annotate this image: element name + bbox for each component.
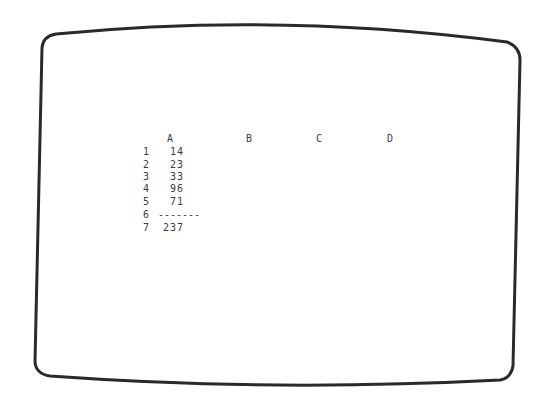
row-number-6[interactable]: 6 [143, 209, 153, 221]
cell-a7-total[interactable]: 237 [144, 222, 184, 234]
cell-a3[interactable]: 33 [144, 171, 184, 183]
column-header-a[interactable]: A [167, 133, 174, 145]
cell-a4[interactable]: 96 [144, 183, 184, 195]
cell-a1[interactable]: 14 [144, 146, 184, 158]
cell-a5[interactable]: 71 [144, 196, 184, 208]
column-header-b[interactable]: B [246, 133, 253, 145]
column-header-d[interactable]: D [387, 133, 394, 145]
cell-a6-separator[interactable]: ------- [158, 209, 200, 221]
column-header-c[interactable]: C [316, 133, 323, 145]
cell-a2[interactable]: 23 [144, 159, 184, 171]
crt-screen-border [0, 0, 546, 412]
